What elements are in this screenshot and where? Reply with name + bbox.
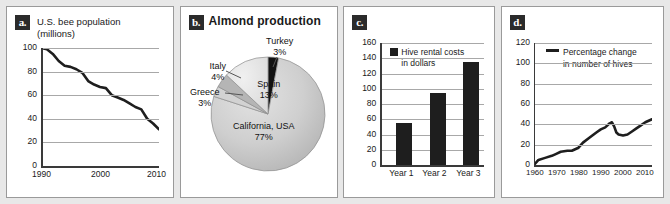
- y-tick-label: 100: [350, 83, 376, 93]
- y-tick-label: 20: [350, 144, 376, 154]
- panel-badge-d: d.: [510, 15, 525, 30]
- panel-a-bee-population: a. U.S. bee population (millions) 100 80…: [6, 6, 174, 198]
- y-tick-label: 40: [9, 113, 37, 123]
- panel-c-hive-rental-costs: c. Hive rental costs in dollars 160 140 …: [343, 6, 495, 198]
- x-tick-label: 2000: [91, 169, 110, 179]
- y-axis-line: [41, 48, 43, 167]
- y-tick-label: 60: [506, 98, 530, 108]
- x-axis-line: [380, 165, 484, 167]
- panel-a-plot-area: 100 80 60 40 20 0 1990 2000 2010: [41, 48, 159, 166]
- panel-badge-c: c.: [352, 15, 367, 30]
- gridline: [534, 63, 652, 64]
- panel-a-title: U.S. bee population (millions): [37, 16, 162, 39]
- x-tick-label: 1970: [548, 168, 566, 177]
- gridline: [41, 48, 159, 49]
- gridline: [41, 95, 159, 96]
- gridline: [534, 84, 652, 85]
- y-tick-label: 100: [506, 57, 530, 67]
- y-tick-label: 120: [350, 68, 376, 78]
- x-axis-line: [41, 166, 159, 168]
- x-tick-label: 2010: [636, 168, 654, 177]
- panel-b-almond-production: b. Almond production: [180, 6, 338, 198]
- y-tick-label: 100: [9, 42, 37, 52]
- gridline: [534, 104, 652, 105]
- x-tick-label: Year 2: [422, 168, 446, 178]
- y-tick-label: 20: [9, 136, 37, 146]
- y-tick-label: 60: [9, 89, 37, 99]
- y-tick-label: 40: [350, 129, 376, 139]
- panel-a-title-line2: (millions): [37, 28, 75, 39]
- y-tick-label: 80: [350, 98, 376, 108]
- gridline: [534, 124, 652, 125]
- panel-c-plot-area: 160 140 120 100 80 60 40 20 0 Year 1 Yea…: [380, 43, 484, 165]
- x-tick-label: Year 3: [456, 168, 480, 178]
- x-tick-label: Year 1: [389, 168, 413, 178]
- gridline: [534, 43, 652, 44]
- y-tick-label: 40: [506, 118, 530, 128]
- x-tick-label: 2010: [147, 169, 166, 179]
- bar-year-3: [463, 62, 479, 165]
- bar-year-2: [430, 93, 446, 165]
- panel-badge-a: a.: [15, 15, 30, 30]
- y-tick-label: 20: [506, 139, 530, 149]
- y-axis-line: [380, 43, 382, 166]
- x-tick-label: 1980: [570, 168, 588, 177]
- y-tick-label: 140: [350, 52, 376, 62]
- x-tick-label: 1960: [526, 168, 544, 177]
- panel-a-line-series: [41, 48, 159, 167]
- y-tick-label: 80: [9, 66, 37, 76]
- y-tick-label: 160: [350, 37, 376, 47]
- panel-d-plot-area: 120 100 80 60 40 20 0 1960 1970 1980 199…: [534, 43, 652, 165]
- y-tick-label: 120: [506, 37, 530, 47]
- y-axis-line: [534, 43, 536, 166]
- gridline: [41, 142, 159, 143]
- x-axis-line: [534, 165, 652, 167]
- x-tick-label: 2000: [614, 168, 632, 177]
- y-tick-label: 0: [350, 159, 376, 169]
- y-tick-label: 80: [506, 78, 530, 88]
- bar-year-1: [396, 123, 412, 165]
- panel-d-percentage-change: d. Percentage change in number of hives …: [501, 6, 664, 198]
- panel-a-title-line1: U.S. bee population: [37, 16, 120, 27]
- pie-leader-lines: [181, 7, 339, 199]
- gridline: [41, 119, 159, 120]
- y-tick-label: 60: [350, 113, 376, 123]
- x-tick-label: 1990: [32, 169, 51, 179]
- figure-panel-group: a. U.S. bee population (millions) 100 80…: [0, 0, 670, 204]
- x-tick-label: 1990: [592, 168, 610, 177]
- gridline: [380, 58, 484, 59]
- gridline: [41, 72, 159, 73]
- gridline: [534, 145, 652, 146]
- gridline: [380, 43, 484, 44]
